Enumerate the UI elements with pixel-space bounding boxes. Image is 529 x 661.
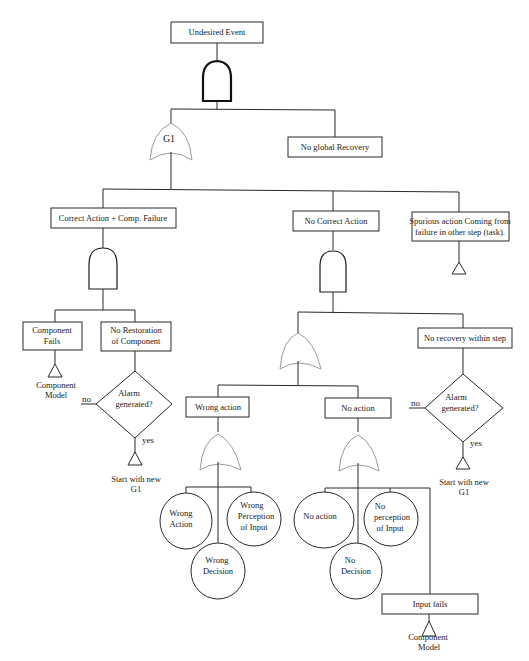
no-recovery-within-step-node[interactable]: No recovery within step <box>418 328 512 348</box>
start-new-left-line1: Start with new <box>111 474 161 484</box>
alarm-left-line2: generated? <box>116 399 153 409</box>
input-fails-label: Input fails <box>413 599 448 609</box>
spurious-action-label-line2: failure in other step (task). <box>415 227 505 237</box>
alarm-decision-right[interactable]: Alarm generated? <box>425 374 503 442</box>
component-model-left-line2: Model <box>45 390 68 400</box>
component-model-bottom-line2: Model <box>418 642 441 652</box>
no-action-circle-label: No action <box>303 511 337 521</box>
alarm-left-line1: Alarm <box>118 388 140 398</box>
wrong-decision-circle[interactable]: Wrong Decision <box>191 543 245 599</box>
wrong-action-label: Wrong action <box>195 402 242 412</box>
start-new-right-line2: G1 <box>459 487 469 497</box>
no-action-node[interactable]: No action <box>325 398 391 418</box>
no-correct-action-node[interactable]: No Correct Action <box>293 211 379 231</box>
no-perception-line1: No <box>375 501 385 511</box>
no-decision-circle[interactable]: No Decision <box>330 543 382 599</box>
alarm-right-line2: generated? <box>442 403 479 413</box>
wrong-perception-line2: Perception <box>238 511 275 521</box>
transfer-triangle-icon <box>452 262 466 274</box>
wrong-perception-line3: of Input <box>240 522 268 532</box>
no-perception-circle[interactable]: No perception of Input <box>364 492 418 546</box>
wrong-action-node[interactable]: Wrong action <box>186 397 249 417</box>
wrong-decision-line2: Decision <box>203 566 234 576</box>
alarm-decision-left[interactable]: Alarm generated? <box>96 371 172 438</box>
wrong-decision-line1: Wrong <box>205 555 229 565</box>
alarm-left-no-label: no <box>82 394 92 404</box>
no-action-circle[interactable]: No action <box>294 492 354 548</box>
no-restoration-line1: No Restoration <box>110 325 162 335</box>
no-correct-action-label: No Correct Action <box>305 216 369 226</box>
alarm-left-yes-label: yes <box>142 435 154 445</box>
or-gate-icon <box>280 333 321 369</box>
and-gate-middle-icon <box>320 251 346 292</box>
no-decision-line1: No <box>345 555 355 565</box>
wrong-action-circle-line1: Wrong <box>169 508 193 518</box>
correct-action-comp-failure-node[interactable]: Correct Action + Comp. Failure <box>51 208 176 228</box>
alarm-right-no-label: no <box>411 398 421 408</box>
wrong-action-circle-line2: Action <box>169 519 193 529</box>
no-global-recovery-label: No global Recovery <box>301 142 370 152</box>
component-model-bottom-line1: Component <box>408 632 448 642</box>
no-perception-line2: perception <box>374 512 411 522</box>
input-fails-node[interactable]: Input fails <box>382 594 478 614</box>
component-fails-line2: Fails <box>44 336 61 346</box>
top-event-label: Undesired Event <box>189 27 247 37</box>
no-action-label: No action <box>341 403 375 413</box>
wrong-action-circle[interactable]: Wrong Action <box>160 493 212 549</box>
no-restoration-node[interactable]: No Restoration of Component <box>101 322 171 351</box>
start-new-right-line1: Start with new <box>439 477 489 487</box>
component-model-left-line1: Component <box>36 380 76 390</box>
top-event-node[interactable]: Undesired Event <box>171 22 263 43</box>
start-new-left-line2: G1 <box>131 484 141 494</box>
or-gate-icon <box>200 434 241 470</box>
no-restoration-line2: of Component <box>112 336 162 346</box>
component-fails-node[interactable]: Component Fails <box>23 322 82 350</box>
transfer-triangle-icon <box>128 452 142 465</box>
wrong-perception-line1: Wrong <box>240 500 264 510</box>
correct-action-comp-failure-label: Correct Action + Comp. Failure <box>59 213 168 223</box>
no-global-recovery-node[interactable]: No global Recovery <box>288 137 382 157</box>
spurious-action-node[interactable]: Spurious action Coming from failure in o… <box>409 212 511 241</box>
component-fails-line1: Component <box>32 325 72 335</box>
alarm-right-yes-label: yes <box>470 438 482 448</box>
no-decision-line2: Decision <box>341 566 372 576</box>
alarm-right-line1: Alarm <box>445 392 467 402</box>
and-gate-top-icon <box>203 61 231 101</box>
g1-label: G1 <box>163 133 175 144</box>
fault-tree-diagram: Undesired Event G1 No global Recovery Co… <box>0 0 529 661</box>
wrong-perception-circle[interactable]: Wrong Perception of Input <box>227 492 281 546</box>
spurious-action-label-line1: Spurious action Coming from <box>409 216 511 226</box>
transfer-triangle-icon <box>48 364 62 377</box>
and-gate-left-icon <box>89 248 117 289</box>
no-recovery-within-step-label: No recovery within step <box>424 333 506 343</box>
or-gate-icon <box>339 435 379 471</box>
no-perception-line3: of Input <box>376 523 404 533</box>
transfer-triangle-icon <box>456 457 470 469</box>
